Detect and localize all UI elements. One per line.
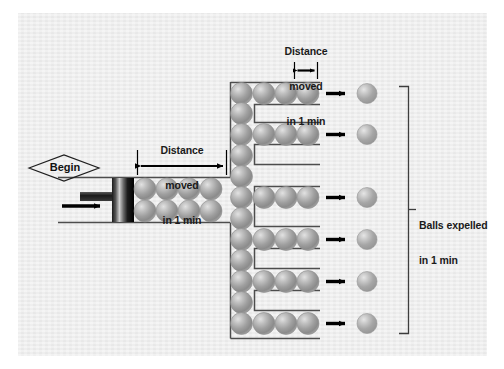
- expelled-bracket: [399, 87, 416, 334]
- expelled-ball: [357, 314, 377, 334]
- begin-label-text: Begin: [29, 161, 101, 173]
- branch-partition-5: [255, 291, 321, 311]
- ball: [253, 271, 275, 293]
- ball: [231, 145, 253, 167]
- ball: [297, 313, 319, 335]
- right-distance-line2: moved: [258, 81, 354, 93]
- piston-assembly: [80, 178, 134, 222]
- ball: [275, 187, 297, 209]
- left-distance-line1: Distance: [133, 145, 231, 157]
- ball: [275, 229, 297, 251]
- right-distance-line1: Distance: [258, 46, 354, 58]
- ball: [231, 187, 253, 209]
- ball: [231, 229, 253, 251]
- piston-rod: [80, 192, 113, 201]
- ball: [275, 271, 297, 293]
- ball: [231, 83, 253, 105]
- ball: [253, 229, 275, 251]
- expelled-balls-group: [357, 84, 377, 334]
- ball: [297, 271, 319, 293]
- piston-head: [112, 178, 134, 222]
- expelled-ball: [357, 188, 377, 208]
- begin-label: Begin: [29, 155, 101, 181]
- ball: [297, 187, 319, 209]
- left-distance-line2: moved: [133, 180, 231, 192]
- bracket-path: [399, 87, 409, 334]
- ball: [253, 313, 275, 335]
- balls-expelled-line1: Balls expelled: [419, 220, 495, 232]
- expelled-ball: [357, 230, 377, 250]
- ball: [231, 103, 253, 125]
- ball: [275, 313, 297, 335]
- right-distance-label: Distance moved in 1 min: [258, 23, 354, 151]
- right-distance-line3: in 1 min: [258, 116, 354, 128]
- ball: [297, 229, 319, 251]
- diagram-vector-layer: [0, 0, 504, 369]
- ball: [231, 124, 253, 146]
- balls-expelled-label: Balls expelled in 1 min: [419, 197, 495, 290]
- ball: [231, 166, 253, 188]
- left-distance-label: Distance moved in 1 min: [133, 122, 231, 250]
- diagram-stage: Begin Distance moved in 1 min Distance m…: [0, 0, 504, 369]
- ball: [231, 208, 253, 230]
- left-distance-line3: in 1 min: [133, 215, 231, 227]
- expelled-ball: [357, 84, 377, 104]
- balls-expelled-line2: in 1 min: [419, 255, 495, 267]
- ball: [231, 313, 253, 335]
- branch-partition-4: [255, 249, 321, 269]
- ball: [231, 292, 253, 314]
- ball: [231, 271, 253, 293]
- manifold-column-balls: [231, 83, 253, 335]
- expelled-ball: [357, 272, 377, 292]
- expelled-ball: [357, 125, 377, 145]
- ball: [231, 250, 253, 272]
- ball: [253, 187, 275, 209]
